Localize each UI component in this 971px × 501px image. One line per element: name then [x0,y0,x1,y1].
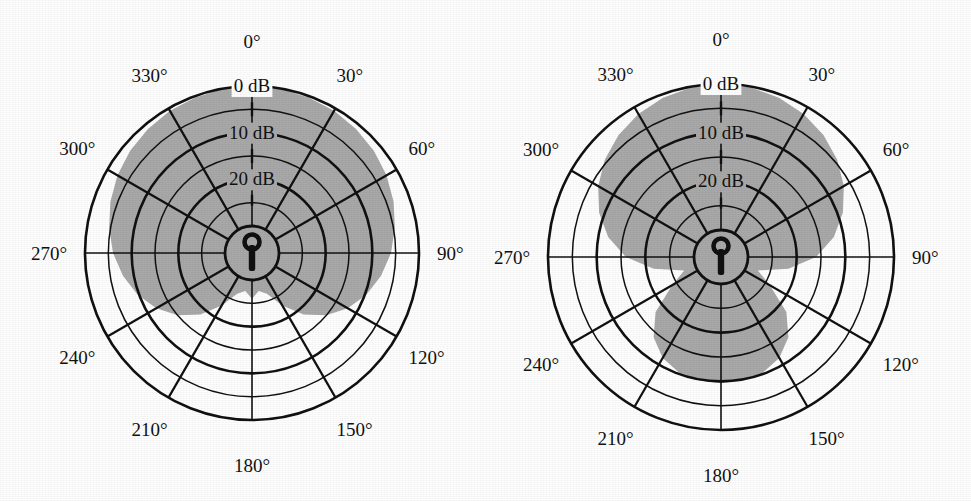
angle-label-240deg: 240° [523,354,559,375]
angle-label-180deg: 180° [703,465,739,486]
db-label-0db: 0 dB [703,73,739,94]
angle-label-330deg: 330° [131,65,167,86]
db-label-20db: 20 dB [698,170,744,191]
angle-label-60deg: 60° [409,138,436,159]
angle-label-120deg: 120° [409,347,445,368]
left-polar-svg: 0 dB10 dB20 dB0°30°60°90°120°150°180°210… [0,0,485,501]
db-label-20db: 20 dB [229,168,275,189]
angle-label-330deg: 330° [597,64,633,85]
angle-label-60deg: 60° [883,139,910,160]
angle-label-90deg: 90° [912,247,939,268]
angle-label-150deg: 150° [809,428,845,449]
angle-label-180deg: 180° [234,455,270,476]
angle-label-120deg: 120° [883,354,919,375]
db-label-10db: 10 dB [229,122,275,143]
db-label-0db: 0 dB [234,75,270,96]
angle-label-240deg: 240° [59,347,95,368]
angle-label-210deg: 210° [131,419,167,440]
polar-pattern-figure: 0 dB10 dB20 dB0°30°60°90°120°150°180°210… [0,0,971,501]
right-polar-plot: 0 dB10 dB20 dB0°30°60°90°120°150°180°210… [485,0,970,501]
angle-label-210deg: 210° [597,428,633,449]
angle-label-90deg: 90° [437,243,464,264]
right-polar-svg: 0 dB10 dB20 dB0°30°60°90°120°150°180°210… [485,0,970,501]
angle-label-300deg: 300° [523,139,559,160]
angle-label-0deg: 0° [243,31,260,52]
angle-label-150deg: 150° [337,419,373,440]
mic-body-icon [249,245,255,271]
angle-label-30deg: 30° [809,64,836,85]
left-polar-plot: 0 dB10 dB20 dB0°30°60°90°120°150°180°210… [0,0,485,501]
angle-label-0deg: 0° [712,29,729,50]
angle-label-300deg: 300° [59,138,95,159]
angle-label-270deg: 270° [31,243,67,264]
db-label-10db: 10 dB [698,122,744,143]
angle-label-270deg: 270° [494,247,530,268]
angle-label-30deg: 30° [337,65,364,86]
db-labels: 0 dB10 dB20 dB [696,73,746,192]
db-labels: 0 dB10 dB20 dB [227,75,277,190]
mic-body-icon [718,249,724,275]
